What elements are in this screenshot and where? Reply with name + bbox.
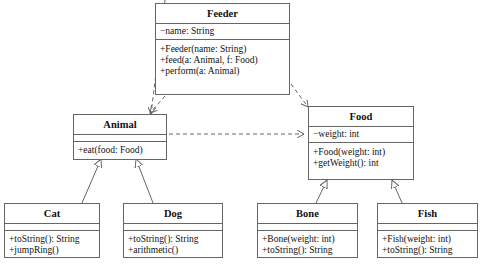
operation: +Bone(weight: int) bbox=[262, 234, 353, 245]
operation: +Food(weight: int) bbox=[313, 147, 409, 158]
operation: +jumpRing() bbox=[9, 245, 95, 256]
operations: +eat(food: Food) bbox=[74, 142, 166, 158]
class-animal: Animal +eat(food: Food) bbox=[73, 114, 167, 160]
class-name: Feeder bbox=[156, 4, 289, 24]
attributes bbox=[5, 224, 99, 231]
class-cat: Cat +toString(): String +jumpRing() bbox=[4, 203, 100, 258]
class-name: Food bbox=[309, 107, 413, 127]
operation: +Feeder(name: String) bbox=[160, 44, 285, 55]
class-name: Cat bbox=[5, 204, 99, 224]
attributes: −name: String bbox=[156, 24, 289, 40]
class-dog: Dog +toString(): String +arithmetic() bbox=[123, 203, 223, 258]
operation: +toString(): String bbox=[9, 234, 95, 245]
attributes: −weight: int bbox=[309, 127, 413, 143]
generalization-fish-food bbox=[392, 180, 402, 203]
attributes bbox=[124, 224, 222, 231]
class-fish: Fish +Fish(weight: int) +toString(): Str… bbox=[377, 203, 478, 258]
operations: +Bone(weight: int) +toString(): String bbox=[258, 231, 357, 258]
operation: +arithmetic() bbox=[128, 245, 218, 256]
class-name: Animal bbox=[74, 115, 166, 135]
operations: +Food(weight: int) +getWeight(): int bbox=[309, 143, 413, 171]
operations: +toString(): String +arithmetic() bbox=[124, 231, 222, 258]
attributes bbox=[378, 224, 477, 231]
operations: +toString(): String +jumpRing() bbox=[5, 231, 99, 258]
attribute: −weight: int bbox=[313, 129, 409, 140]
class-name: Fish bbox=[378, 204, 477, 224]
attributes bbox=[258, 224, 357, 231]
operation: +getWeight(): int bbox=[313, 158, 409, 169]
class-name: Dog bbox=[124, 204, 222, 224]
operation: +perform(a: Animal) bbox=[160, 66, 285, 77]
operation: +toString(): String bbox=[262, 245, 353, 256]
class-food: Food −weight: int +Food(weight: int) +ge… bbox=[308, 106, 414, 180]
operation: +Fish(weight: int) bbox=[382, 234, 473, 245]
class-bone: Bone +Bone(weight: int) +toString(): Str… bbox=[257, 203, 358, 258]
attribute: −name: String bbox=[160, 26, 285, 37]
generalization-cat-animal bbox=[82, 159, 101, 203]
operation: +toString(): String bbox=[128, 234, 218, 245]
operations: +Feeder(name: String) +feed(a: Animal, f… bbox=[156, 40, 289, 79]
generalization-dog-animal bbox=[136, 159, 153, 203]
attributes bbox=[74, 135, 166, 142]
dependency-feeder-food bbox=[291, 84, 308, 107]
class-name: Bone bbox=[258, 204, 357, 224]
class-feeder: Feeder −name: String +Feeder(name: Strin… bbox=[155, 3, 290, 95]
operation: +eat(food: Food) bbox=[78, 145, 162, 156]
operation: +toString(): String bbox=[382, 245, 473, 256]
operations: +Fish(weight: int) +toString(): String bbox=[378, 231, 477, 258]
generalization-bone-food bbox=[316, 180, 327, 203]
operation: +feed(a: Animal, f: Food) bbox=[160, 55, 285, 66]
